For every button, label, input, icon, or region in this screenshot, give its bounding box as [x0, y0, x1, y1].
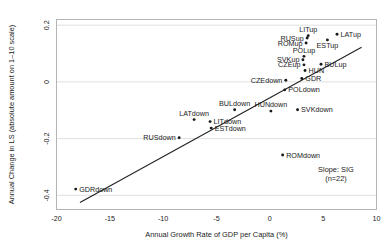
point-label: BULdown [219, 99, 250, 108]
data-point [300, 77, 303, 80]
data-point [304, 69, 307, 72]
x-tick-label: 0 [268, 214, 272, 223]
point-label: ROMdown [286, 151, 320, 160]
plot-canvas: LATupLITupRUSupESTupROMupPOLupSVKupCZEup… [0, 0, 390, 252]
y-tick-label: -0.2 [43, 132, 52, 144]
point-label: BULup [325, 60, 347, 69]
y-axis-title: Annual Change in LS (absolute amount on … [7, 25, 16, 205]
point-label: GDR [305, 74, 321, 83]
annotation-text: (n=22) [325, 174, 347, 183]
data-point [233, 108, 236, 111]
data-point [303, 55, 306, 58]
point-label: ESTup [317, 41, 339, 50]
data-point [269, 110, 272, 113]
data-point [301, 58, 304, 61]
y-axis-ticks: 0.20-0.2-0.4 [43, 20, 52, 201]
data-point [178, 136, 181, 139]
point-label: LATdown [179, 109, 209, 118]
data-point [306, 36, 309, 39]
y-tick-label: 0.2 [43, 20, 52, 30]
point-label: CZEdown [251, 76, 283, 85]
point-label: SVKdown [301, 105, 333, 114]
x-tick-label: 5 [321, 214, 325, 223]
point-label: ESTdown [215, 124, 246, 133]
y-tick-label: 0 [43, 80, 52, 84]
x-tick-label: -20 [51, 214, 61, 223]
data-point [303, 63, 306, 66]
data-point [193, 118, 196, 121]
data-point [74, 188, 77, 191]
data-point [283, 88, 286, 91]
data-point [305, 42, 308, 45]
x-tick-label: 10 [373, 214, 381, 223]
scatter-plot-figure: LATupLITupRUSupESTupROMupPOLupSVKupCZEup… [0, 0, 390, 252]
point-label: POLdown [288, 85, 320, 94]
data-point [296, 108, 299, 111]
point-label: GDRdown [79, 185, 112, 194]
point-label: HUNdown [255, 100, 288, 109]
y-tick-label: -0.4 [43, 189, 52, 201]
data-point [336, 33, 339, 36]
point-label: RUSdown [143, 133, 175, 142]
x-tick-label: -5 [213, 214, 219, 223]
slope-annotation: Slope: SIG(n=22) [318, 165, 354, 183]
x-tick-label: -10 [158, 214, 168, 223]
data-point [209, 120, 212, 123]
data-point [281, 154, 284, 157]
x-axis-ticks: -20-15-10-50510 [51, 214, 380, 223]
point-label: CZEup [278, 60, 300, 69]
x-axis-title: Annual Growth Rate of GDP per Capita (%) [145, 230, 287, 239]
x-tick-label: -15 [105, 214, 115, 223]
data-point [284, 79, 287, 82]
data-point [210, 127, 213, 130]
point-label: LATup [341, 30, 361, 39]
point-label: POLup [293, 46, 315, 55]
